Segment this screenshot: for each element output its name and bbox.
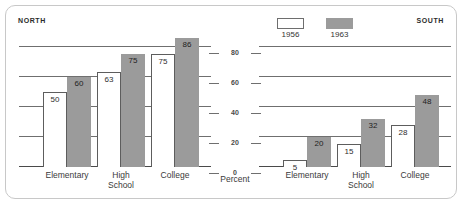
- bar-1963-high-school: 32: [361, 119, 385, 167]
- panel-title-north: NORTH: [18, 17, 46, 24]
- category-label: High School: [331, 170, 391, 190]
- bar-value-label: 60: [67, 79, 91, 88]
- bar-value-label: 15: [338, 147, 360, 156]
- legend-swatch-1963-icon: [326, 18, 353, 29]
- chart-panel-south: 52015322848 ElementaryHigh SchoolCollege: [259, 37, 451, 173]
- category-label: College: [385, 170, 445, 180]
- bar-1956-elementary: 50: [43, 92, 67, 167]
- bar-value-label: 75: [121, 56, 145, 65]
- bar-1956-college: 28: [391, 125, 415, 167]
- bar-value-label: 32: [361, 121, 385, 130]
- bar-1956-high-school: 63: [97, 72, 121, 167]
- tick-label: 60: [211, 79, 259, 86]
- bar-group: 2848: [391, 37, 439, 167]
- tick-label: 20: [211, 139, 259, 146]
- category-label: High School: [91, 170, 151, 190]
- bar-group: 7586: [151, 37, 199, 167]
- bar-1963-college: 48: [415, 95, 439, 167]
- legend-item-1956: 1956: [277, 18, 304, 39]
- bar-group-container-south: 52015322848: [259, 37, 451, 167]
- bar-value-label: 28: [392, 128, 414, 137]
- category-label: Elementary: [37, 170, 97, 180]
- bar-value-label: 48: [415, 97, 439, 106]
- bar-value-label: 63: [98, 75, 120, 84]
- bar-value-label: 86: [175, 40, 199, 49]
- tick-label: 40: [211, 109, 259, 116]
- chart-legend: 1956 1963: [277, 18, 353, 39]
- percent-axis: 806040200 Percent: [211, 37, 259, 173]
- category-label: Elementary: [277, 170, 337, 180]
- chart-panel-north: 506063757586 ElementaryHigh SchoolColleg…: [19, 37, 211, 173]
- chart-card: NORTH SOUTH 1956 1963 506063757586 Eleme…: [5, 5, 457, 199]
- plot-area-north: 506063757586: [19, 37, 211, 167]
- bar-1963-elementary: 20: [307, 137, 331, 167]
- bar-1963-elementary: 60: [67, 77, 91, 167]
- category-axis-north: ElementaryHigh SchoolCollege: [19, 170, 211, 199]
- bar-1963-high-school: 75: [121, 54, 145, 167]
- tick-label: 80: [211, 49, 259, 56]
- bar-value-label: 50: [44, 95, 66, 104]
- category-label: College: [145, 170, 205, 180]
- bar-1956-elementary: 5: [283, 160, 307, 168]
- plot-area-south: 52015322848: [259, 37, 451, 167]
- category-axis-south: ElementaryHigh SchoolCollege: [259, 170, 451, 199]
- bar-value-label: 20: [307, 139, 331, 148]
- bar-group: 6375: [97, 37, 145, 167]
- bar-group: 520: [283, 37, 331, 167]
- percent-axis-caption: Percent: [211, 174, 259, 184]
- legend-swatch-1956-icon: [277, 18, 304, 29]
- bar-1956-high-school: 15: [337, 144, 361, 167]
- panel-title-south: SOUTH: [417, 17, 445, 24]
- bar-1956-college: 75: [151, 54, 175, 167]
- bar-group-container-north: 506063757586: [19, 37, 211, 167]
- legend-item-1963: 1963: [326, 18, 353, 39]
- bar-1963-college: 86: [175, 38, 199, 167]
- bar-group: 1532: [337, 37, 385, 167]
- bar-value-label: 75: [152, 57, 174, 66]
- bar-group: 5060: [43, 37, 91, 167]
